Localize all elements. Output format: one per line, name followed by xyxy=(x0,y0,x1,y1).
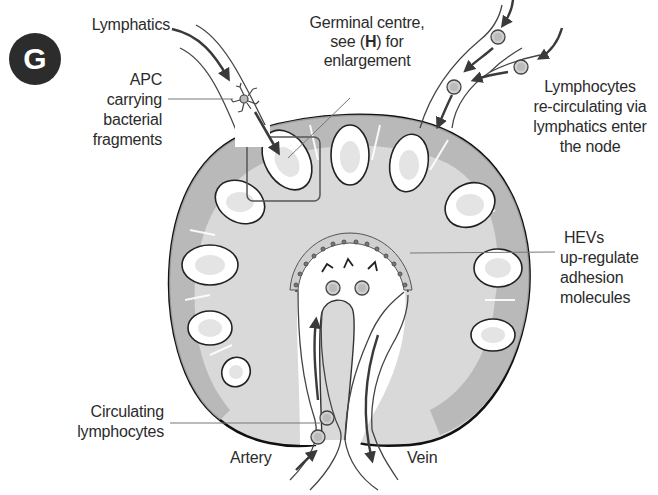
label-circulating-lymphocytes: Circulating lymphocytes xyxy=(60,402,164,442)
label-artery: Artery xyxy=(230,448,271,467)
label-lymphocytes-recirculating: Lymphocytes re-circulating via lymphatic… xyxy=(522,77,658,157)
apc-cell-icon xyxy=(231,83,259,112)
afferent-lymphatic-left xyxy=(172,25,278,152)
panel-letter-badge: G xyxy=(9,33,61,85)
lymphocyte-icons xyxy=(447,30,528,94)
label-hevs: HEVs up-regulate adhesion molecules xyxy=(560,228,658,308)
label-vein: Vein xyxy=(407,448,437,467)
label-lymphatics: Lymphatics xyxy=(74,15,170,34)
label-apc: APC carrying bacterial fragments xyxy=(80,70,162,150)
label-germinal-centre: Germinal centre, see (H) for enlargement xyxy=(302,13,432,70)
